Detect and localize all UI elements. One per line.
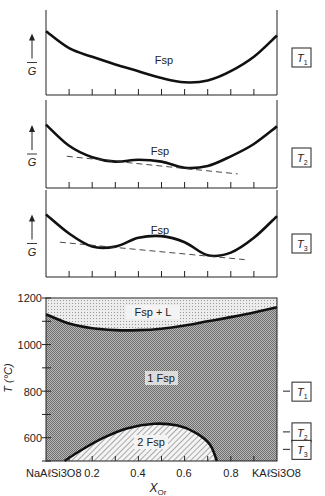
g-panel-t2: FspGT2 [27, 100, 311, 188]
y-tick-label: 800 [24, 386, 42, 398]
feldspar-figure: FspGT1 FspGT2 FspGT3 Fsp + L 1 Fsp 2 Fsp… [0, 0, 325, 496]
y-tick-label: 1200 [18, 292, 42, 304]
g-axis-label: G [28, 156, 37, 168]
arrow-head-icon [29, 34, 35, 41]
x-tick-label: 0.8 [223, 467, 238, 479]
x-right-endmember: KAℓSi3O8 [252, 467, 301, 479]
temperature-label: T1 [297, 52, 308, 66]
g-panel-t1: FspGT1 [27, 10, 311, 95]
g-axis-label: G [28, 246, 37, 258]
phase-diagram: Fsp + L 1 Fsp 2 Fsp 1200 1000 800 600 T … [2, 292, 311, 496]
x-left-endmember: NaAℓSi3O8 [26, 467, 82, 479]
x-right-endmember-text: KAℓSi3O8 [252, 467, 301, 479]
phase-label-fsp: Fsp [151, 145, 169, 157]
temperature-label: T3 [297, 238, 308, 252]
phase-label-fsp: Fsp [151, 224, 169, 236]
x-left-endmember-text: NaAℓSi3O8 [26, 467, 82, 479]
x-axis-label-sub: Or [158, 488, 167, 496]
arrow-head-icon [29, 125, 35, 132]
g-axis-label: G [28, 65, 37, 77]
arrow-head-icon [29, 215, 35, 222]
phase-label-fsp: Fsp [155, 54, 173, 66]
y-tick-label: 1000 [18, 339, 42, 351]
y-axis-label: T (°C) [2, 363, 14, 393]
x-tick-label: 0.6 [176, 467, 191, 479]
temperature-markers: T1T2T3 [283, 382, 311, 459]
x-tick-label: 0.2 [84, 467, 99, 479]
temperature-label: T2 [297, 152, 308, 166]
g-panel-t3: FspGT3 [27, 190, 311, 277]
region-label-fsp-l: Fsp + L [135, 306, 172, 318]
x-tick-label: 0.4 [130, 467, 145, 479]
region-label-1-fsp: 1 Fsp [147, 372, 175, 384]
y-tick-label: 600 [24, 432, 42, 444]
region-label-2-fsp: 2 Fsp [137, 436, 165, 448]
x-axis-label: XOr [149, 481, 167, 496]
